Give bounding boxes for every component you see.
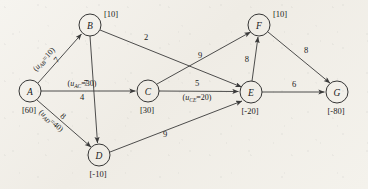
node-F-label: F [255,21,262,31]
edge-A-B-capacity-group: (uAB=10) 7 [31,45,64,79]
edge-C-E [159,91,239,92]
node-F[interactable]: F [10] [248,9,287,36]
edge-E-F [252,37,258,81]
edge-labels-layer: (uAB=10) 7 (uAC=30) 4 8 (uAD=40) 7 2 9 5… [31,32,308,139]
node-A-label: A [26,87,33,97]
node-G-bracket: [-80] [328,106,345,116]
node-G[interactable]: G [-80] [326,81,348,116]
node-E-bracket: [-20] [242,106,259,116]
node-E[interactable]: E [-20] [240,81,262,116]
edge-A-B-cost: 7 [51,55,61,65]
edge-A-D-cost: 8 [58,111,68,121]
edge-C-F [157,32,251,84]
edges-layer [37,30,330,152]
edge-B-E-cost: 2 [144,32,148,42]
edge-A-C-capacity: (uAC=30) [67,79,96,89]
node-F-bracket: [10] [273,9,287,19]
edge-D-E [110,101,242,152]
node-D-label: D [95,151,103,161]
network-flow-diagram: A [60] B [10] C [30] D [-10] E [-20] [0,0,368,189]
node-E-label: E [247,88,254,98]
edge-B-E [100,30,242,87]
edge-D-E-cost: 9 [163,129,167,139]
node-C-bracket: [30] [140,105,154,115]
edge-F-G [268,32,330,83]
edge-E-F-cost: 8 [245,54,249,64]
edge-A-C-cost: 4 [80,92,85,102]
node-B[interactable]: B [10] [79,9,118,36]
edge-C-E-cost: 5 [195,78,199,88]
edge-B-D-cost: 7 [84,78,88,88]
node-A[interactable]: A [60] [19,80,41,115]
node-A-bracket: [60] [22,105,36,115]
node-C-label: C [145,87,152,97]
edge-B-D [90,36,98,143]
edge-E-G-cost: 6 [292,79,296,89]
edge-A-D [37,100,91,147]
node-D-bracket: [-10] [90,169,107,179]
edge-C-E-capacity: (uCE=20) [182,93,211,103]
node-B-bracket: [10] [104,9,118,19]
edge-F-G-cost: 8 [304,45,308,55]
edge-C-F-cost: 9 [198,50,202,60]
node-D[interactable]: D [-10] [88,144,110,179]
node-C[interactable]: C [30] [137,80,159,115]
node-B-label: B [87,21,93,31]
node-G-label: G [334,88,341,98]
